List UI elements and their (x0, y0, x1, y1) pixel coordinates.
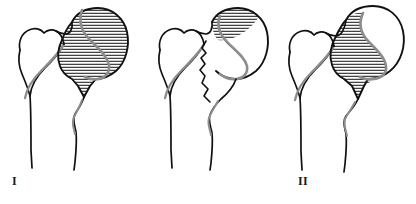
inner-contour-grey-medial (208, 101, 218, 135)
neck-fracture-line (200, 41, 210, 102)
panel-3-illustration (268, 0, 416, 204)
medial-cortex-outline (209, 79, 236, 170)
superior-neck-outline (196, 22, 212, 34)
panel-label-1: I (12, 175, 17, 187)
lateral-cortex-outline (289, 52, 302, 170)
panel-stage-3: III (268, 0, 408, 204)
panel-2-illustration (138, 0, 278, 204)
panel-stage-2: II (138, 0, 278, 204)
lateral-cortex-outline (159, 50, 172, 168)
lateral-cortex-outline (19, 50, 32, 168)
panel-stage-1: I (0, 0, 140, 204)
figure-root: I (0, 0, 416, 204)
inner-contour-grey-medial (73, 100, 82, 134)
panel-1-illustration (0, 0, 140, 204)
